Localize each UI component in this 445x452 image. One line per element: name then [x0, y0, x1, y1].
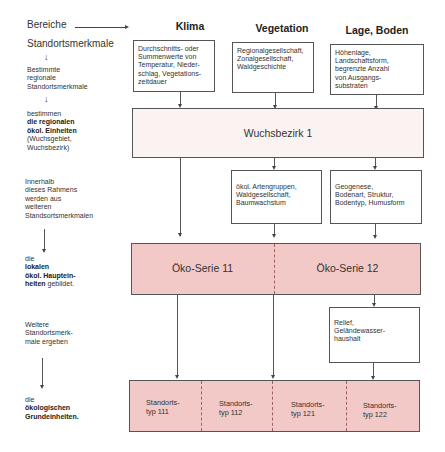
- standortsmerkmale-label: Standortsmerkmale: [27, 38, 114, 49]
- box-vegetation-weitere: ökol. Artengruppen, Waldgesellschaft, Ba…: [231, 170, 322, 224]
- label-step4: die lokalen ökol. Hauptein- heiten gebil…: [25, 255, 76, 289]
- box-relief: Relief, Geländewasser- haushalt: [329, 307, 420, 363]
- box-lage-boden-merkmale: Höhenlage, Landschaftsform, begrenzte An…: [330, 44, 424, 95]
- divider-dashed: [201, 381, 202, 431]
- down-arrow-icon: [271, 375, 275, 379]
- column-header-vegetation: Vegetation: [232, 22, 332, 34]
- step-arrow-line: [44, 229, 45, 251]
- down-arrow-icon: [178, 233, 182, 237]
- oeko-serie-12-label: Öko-Serie 12: [274, 262, 421, 274]
- standortstyp-121: Standorts- typ 121: [291, 401, 325, 418]
- down-arrow-icon: [373, 235, 377, 239]
- down-arrow-icon: ↓: [44, 52, 49, 62]
- bereiche-label: Bereiche: [27, 19, 66, 30]
- connector-line: [177, 295, 178, 377]
- bereiche-arrow-line: [75, 27, 125, 28]
- label-step3: Innerhalb dieses Rahmens werden aus weit…: [25, 178, 93, 220]
- standortstyp-122: Standorts- typ 122: [363, 402, 397, 419]
- label-step1: Bestimmte regionale Standortsmerkmale: [27, 66, 88, 91]
- down-arrow-icon: [175, 375, 179, 379]
- down-arrow-icon: [272, 234, 276, 238]
- oeko-serie-11-label: Öko-Serie 11: [131, 262, 274, 274]
- step-arrow-line: [42, 358, 43, 386]
- down-arrow-icon: [42, 249, 46, 253]
- connector-line: [180, 158, 181, 236]
- column-header-lage-boden: Lage, Boden: [327, 24, 427, 36]
- divider-dashed: [272, 381, 273, 431]
- divider-dashed: [346, 381, 347, 431]
- box-klima-merkmale: Durchschnitts- oder Summenwerte von Temp…: [133, 40, 215, 92]
- connector-line: [273, 295, 274, 377]
- label-step2: bestimmen die regionalen ökol. Einheiten…: [27, 110, 77, 152]
- label-step6: die ökologischen Grundeinheiten.: [25, 396, 79, 421]
- bereiche-arrow-head-icon: [125, 25, 129, 29]
- box-vegetation-merkmale: Regionalgesellschaft, Zonalgesellschaft,…: [232, 42, 314, 93]
- down-arrow-icon: [40, 385, 44, 389]
- standortstyp-111: Standorts- typ 111: [146, 399, 180, 416]
- wuchsbezirk-label: Wuchsbezirk 1: [132, 127, 424, 139]
- column-header-klima: Klima: [140, 20, 240, 32]
- label-step5: Weitere Standortsmerk- male ergeben: [25, 321, 73, 346]
- box-boden-weitere: Geogenese, Bodenart, Struktur, Bodentyp,…: [330, 170, 422, 224]
- standortstyp-112: Standorts- typ 112: [219, 400, 253, 417]
- down-arrow-icon: ↓: [44, 94, 49, 104]
